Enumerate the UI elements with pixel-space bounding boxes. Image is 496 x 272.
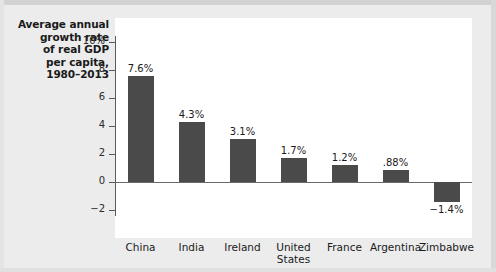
bar-value-label: 3.1%	[213, 126, 273, 137]
bar-value-label: 4.3%	[162, 109, 222, 120]
bar	[179, 122, 205, 182]
bar-value-label: 7.6%	[111, 63, 171, 74]
bar	[332, 165, 358, 182]
frame-border-left	[0, 0, 4, 272]
chart-title-line: Average annual	[6, 18, 109, 31]
bar	[230, 139, 256, 182]
y-axis-tick	[109, 210, 115, 211]
y-axis-tick-label: 6	[59, 91, 105, 102]
bar-value-label: −1.4%	[417, 204, 477, 215]
y-axis-tick-label: 10%	[59, 35, 105, 46]
y-axis-tick-label: 8	[59, 63, 105, 74]
y-axis-tick-label: 2	[59, 147, 105, 158]
frame-border-right	[491, 0, 496, 272]
y-axis-tick-label: −2	[59, 203, 105, 214]
bar	[434, 182, 460, 202]
y-axis-tick	[109, 154, 115, 155]
bar	[128, 76, 154, 182]
y-axis-tick-label: 0	[59, 175, 105, 186]
chart-canvas: Average annual growth rate of real GDP p…	[0, 0, 496, 272]
y-axis-tick	[109, 126, 115, 127]
y-axis-tick	[109, 98, 115, 99]
x-axis-category-label: Zimbabwe	[417, 242, 477, 254]
y-axis-tick-label: 4	[59, 119, 105, 130]
frame-border-top	[0, 0, 496, 5]
y-axis-tick	[109, 42, 115, 43]
x-axis-label-line: States	[264, 254, 324, 266]
bar-value-label: .88%	[366, 157, 426, 168]
frame-border-bottom	[0, 268, 496, 272]
bar	[383, 170, 409, 182]
x-axis-label-line: Zimbabwe	[417, 242, 477, 254]
zero-baseline	[115, 182, 472, 183]
y-axis-tick	[109, 182, 115, 183]
bar	[281, 158, 307, 182]
